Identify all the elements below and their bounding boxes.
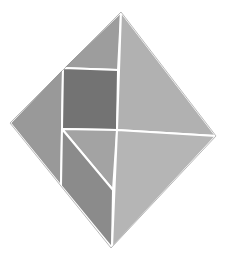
- tangram-figure: [0, 0, 226, 260]
- right-large-triangle: [117, 12, 216, 136]
- square: [62, 68, 118, 130]
- left-triangle: [10, 68, 63, 186]
